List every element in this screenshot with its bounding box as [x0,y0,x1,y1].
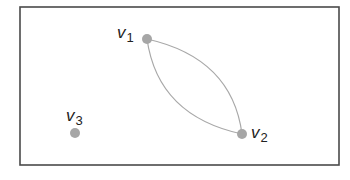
diagram-frame [20,7,339,165]
node-label-v3: v3 [66,107,83,124]
graph-canvas [0,0,350,180]
node-label-v1-subscript: 1 [127,30,134,45]
edge-v1-v2-upper [147,39,242,134]
node-label-v2-base: v [251,123,260,142]
node-v1 [142,34,152,44]
node-label-v3-base: v [66,106,75,125]
node-label-v1-base: v [117,23,126,42]
node-label-v2-subscript: 2 [261,130,268,145]
node-v3 [70,128,80,138]
node-label-v2: v2 [251,124,268,141]
node-v2 [237,129,247,139]
node-label-v1: v1 [117,24,134,41]
edge-v1-v2-lower [147,39,242,134]
node-label-v3-subscript: 3 [76,113,83,128]
